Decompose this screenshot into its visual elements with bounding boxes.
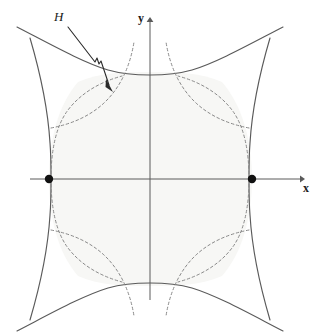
region-label-h: H [54, 10, 63, 23]
diagram-canvas [0, 0, 321, 332]
y-axis-label: y [138, 12, 144, 24]
x-axis-label: x [303, 182, 309, 194]
y-axis-arrowhead [147, 17, 154, 22]
right-vertex-dot [248, 175, 256, 183]
left-vertex-dot [45, 175, 53, 183]
hyperbolic-region-figure: y x H [0, 0, 321, 332]
